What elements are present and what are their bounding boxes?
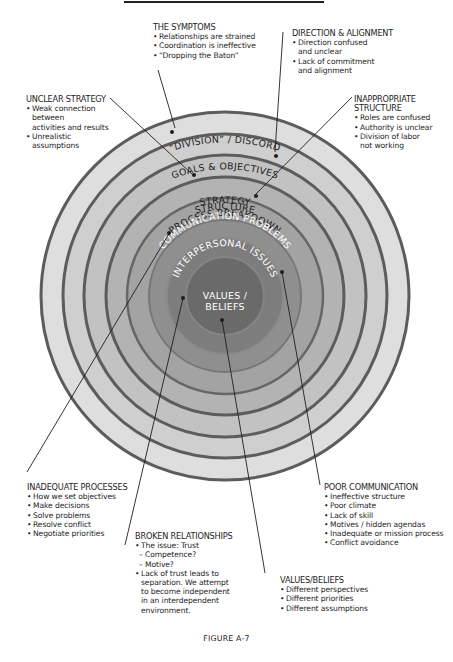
annotation-communication: POOR COMMUNICATION Ineffective structure… — [324, 483, 443, 547]
relationships-subitem: Motive? — [135, 560, 232, 569]
values-item: Different priorities — [280, 594, 368, 603]
leader-symptoms — [158, 70, 175, 128]
communication-item: Conflict avoidance — [324, 538, 443, 547]
relationships-subitem: Competence? — [135, 550, 232, 559]
dot-division — [170, 130, 174, 134]
structure-item: Authority is unclear — [354, 123, 432, 132]
symptoms-item: “Dropping the Baton” — [153, 51, 256, 60]
values-item: Different perspectives — [280, 585, 368, 594]
dot-interpersonal — [181, 296, 185, 300]
ring-label-values-line2: BELIEFS — [205, 301, 245, 312]
strategy-item: Unrealisticassumptions — [26, 132, 109, 150]
communication-item: Lack of skill — [324, 511, 443, 520]
processes-item: How we set objectives — [27, 492, 128, 501]
figure-caption: FIGURE A-7 — [0, 634, 453, 643]
relationships-heading: BROKEN RELATIONSHIPS — [135, 532, 232, 541]
strategy-item: Weak connectionbetweenactivities and res… — [26, 104, 109, 132]
direction-item: Direction confusedand unclear — [292, 38, 393, 56]
direction-heading: DIRECTION & ALIGNMENT — [292, 29, 393, 38]
annotation-values: VALUES/BELIEFS Different perspectives Di… — [280, 576, 368, 613]
annotation-strategy: UNCLEAR STRATEGY Weak connectionbetweena… — [26, 95, 109, 150]
symptoms-item: Coordination is ineffective — [153, 41, 256, 50]
dot-values — [220, 318, 224, 322]
ring-label-values-line1: VALUES / — [203, 290, 248, 301]
values-heading: VALUES/BELIEFS — [280, 576, 368, 585]
communication-item: Motives / hidden agendas — [324, 520, 443, 529]
communication-item: Inadequate or mission process — [324, 529, 443, 538]
strategy-heading: UNCLEAR STRATEGY — [26, 95, 109, 104]
annotation-relationships: BROKEN RELATIONSHIPS The issue: Trust Co… — [135, 532, 232, 615]
dot-process — [167, 231, 171, 235]
annotation-direction: DIRECTION & ALIGNMENT Direction confused… — [292, 29, 393, 75]
processes-heading: INADEQUATE PROCESSES — [27, 483, 128, 492]
dot-communication — [280, 270, 284, 274]
processes-item: Resolve conflict — [27, 520, 128, 529]
relationships-item: Lack of trust leads to separation. We at… — [135, 569, 232, 615]
dot-structure — [254, 194, 258, 198]
communication-item: Ineffective structure — [324, 492, 443, 501]
dot-strategy — [192, 173, 196, 177]
annotation-symptoms: THE SYMPTOMS Relationships are strained … — [153, 23, 256, 60]
direction-item: Lack of commitmentand alignment — [292, 57, 393, 75]
processes-item: Solve problems — [27, 511, 128, 520]
communication-item: Poor climate — [324, 501, 443, 510]
annotation-structure: INAPPROPRIATE STRUCTURE Roles are confus… — [354, 95, 432, 150]
symptoms-heading: THE SYMPTOMS — [153, 23, 256, 32]
relationships-item: The issue: Trust — [135, 541, 232, 550]
symptoms-item: Relationships are strained — [153, 32, 256, 41]
structure-heading-line2: STRUCTURE — [354, 104, 432, 113]
processes-item: Make decisions — [27, 501, 128, 510]
dot-goals — [274, 154, 278, 158]
structure-item: Division of labornot working — [354, 132, 432, 150]
processes-item: Negotiate priorities — [27, 529, 128, 538]
values-item: Different assumptions — [280, 604, 368, 613]
structure-item: Roles are confused — [354, 113, 432, 122]
communication-heading: POOR COMMUNICATION — [324, 483, 443, 492]
annotation-processes: INADEQUATE PROCESSES How we set objectiv… — [27, 483, 128, 538]
